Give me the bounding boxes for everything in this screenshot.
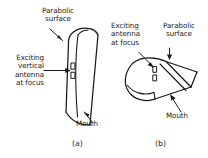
panel-a-vertical-dipole-antenna [71,63,75,78]
panel-a-caption: (a) [72,139,83,148]
panel-a-mouth-edge [90,35,98,125]
panel-a-dipole-lower-element [71,72,75,78]
panel-a-label-exciting-antenna: Exciting vertical antenna at focus [0,54,44,88]
panel-b-arrowhead-mouth [170,94,176,100]
panel-a-inner-rim-arc [78,30,88,35]
panel-a-label-parabolic-surface: Parabolic surface [25,7,91,24]
panel-b-front-parabola-lower [132,95,156,101]
panel-a-top-rim-arc [68,28,98,43]
panel-b-dipole-antenna [153,67,156,81]
panel-b-arrowhead-exciting-antenna [148,62,154,67]
panel-b-dipole-lower-element [153,75,156,81]
panel-b-far-end-edge [191,72,197,87]
panel-b-geometry [125,48,197,112]
panel-a-geometry [44,28,98,125]
panel-a-arrowhead-mouth [84,112,90,117]
panel-a-dipole-upper-element [71,63,75,69]
parabolic-cylinder-antenna-figure: Parabolic surface Exciting vertical ante… [0,0,208,158]
panel-b-leader-mouth [172,98,181,113]
panel-b-label-exciting-antenna: Exciting antenna at focus [111,22,153,47]
panel-a-label-mouth: Mouth [76,120,110,128]
panel-b-arrowhead-parabolic-surface [167,54,172,60]
panel-a-left-generator [66,43,69,112]
panel-b-caption: (b) [155,139,166,148]
panel-a-surface-crease [76,35,78,117]
panel-b-label-mouth: Mouth [166,112,200,120]
panel-b-inner-parabola-crease [128,86,155,94]
panel-b-label-parabolic-surface: Parabolic surface [155,22,203,39]
panel-b-shell-thickness-edge [154,93,155,100]
